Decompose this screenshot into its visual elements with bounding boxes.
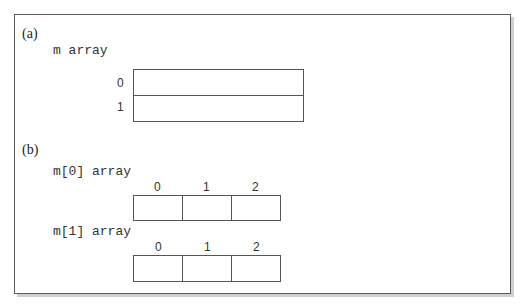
m1-index-2: 2 bbox=[253, 241, 260, 253]
m-row-index-0: 0 bbox=[117, 77, 124, 89]
m-array-title: m array bbox=[53, 44, 108, 57]
m0-index-1: 1 bbox=[203, 181, 210, 193]
m1-cell-2 bbox=[231, 255, 281, 282]
m1-cell-0 bbox=[133, 255, 183, 282]
part-a-label: (a) bbox=[22, 27, 38, 41]
m1-index-0: 0 bbox=[155, 241, 162, 253]
m0-array-title: m[0] array bbox=[53, 165, 131, 178]
m1-cell-1 bbox=[182, 255, 232, 282]
m0-cell-0 bbox=[133, 195, 183, 221]
m0-cell-1 bbox=[182, 195, 232, 221]
m-array-row-1 bbox=[133, 95, 304, 122]
m1-array-title: m[1] array bbox=[53, 225, 131, 238]
m0-index-0: 0 bbox=[154, 181, 161, 193]
part-b-label: (b) bbox=[22, 143, 38, 157]
m0-cell-2 bbox=[231, 195, 281, 221]
m1-index-1: 1 bbox=[204, 241, 211, 253]
m-row-index-1: 1 bbox=[117, 101, 124, 113]
m-array-row-0 bbox=[133, 69, 304, 96]
m0-index-2: 2 bbox=[252, 181, 259, 193]
